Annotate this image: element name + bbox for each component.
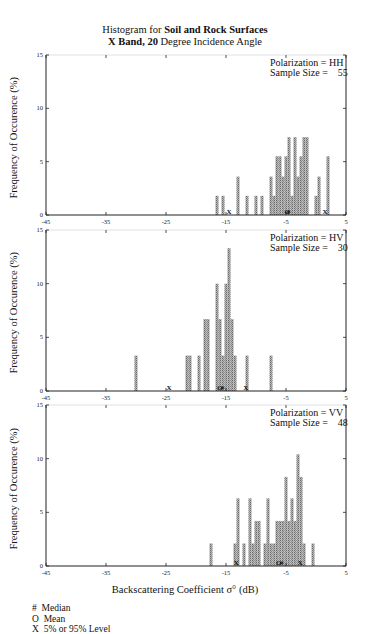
histogram-bar [135, 356, 138, 391]
histogram-bar [198, 356, 201, 391]
x-tick-label: -25 [162, 394, 171, 401]
panel-vv: -45-35-25-15-55051015XO#XPolarization = … [37, 401, 348, 576]
histogram-bar [219, 319, 222, 391]
x-tick-label: -15 [222, 394, 231, 401]
sample-size-label: Sample Size = 30 [270, 242, 348, 253]
histogram-bar [270, 177, 273, 215]
panel-hv: -45-35-25-15-55051015XO#XPolarization = … [37, 226, 348, 401]
histogram-bar [270, 543, 273, 566]
histogram-bar [318, 177, 321, 215]
histogram-bar [285, 477, 288, 566]
x-tick-label: -25 [162, 218, 171, 225]
y-tick-label: 15 [37, 226, 44, 233]
histogram-bar [261, 196, 264, 215]
y-axis-label-hh: Frequency of Occurence (%) [8, 69, 19, 199]
x-tick-label: -35 [102, 218, 111, 225]
histogram-bar [207, 319, 210, 391]
histogram-bar [264, 543, 267, 566]
histogram-bar [291, 498, 294, 566]
histogram-bar [255, 521, 258, 566]
histogram-bar [216, 284, 219, 391]
x-tick-label: 5 [344, 394, 347, 401]
histogram-bar [258, 521, 261, 566]
y-tick-label: 10 [37, 280, 44, 287]
histogram-bar [267, 498, 270, 566]
histogram-bar [252, 543, 255, 566]
histogram-bar [306, 137, 309, 215]
histogram-bar [288, 137, 291, 215]
x-tick-label: -45 [42, 394, 51, 401]
x-tick-label: -45 [42, 569, 51, 576]
histogram-bar [204, 319, 207, 391]
x-tick-label: 5 [344, 218, 347, 225]
histogram-bar [210, 543, 213, 566]
panel-hh: -45-35-25-15-55051015X#OXPolarization = … [37, 51, 348, 225]
sample-size-label: Sample Size = 48 [270, 417, 348, 428]
legend-item-median: # Median [32, 603, 110, 614]
x-tick-label: -5 [283, 218, 288, 225]
histogram-bar [297, 454, 300, 566]
histogram-bar [297, 177, 300, 215]
histogram-bar [303, 137, 306, 215]
y-tick-label: 5 [40, 333, 43, 340]
y-axis-label-vv: Frequency of Occurence (%) [8, 420, 19, 550]
marker-5-level: X [234, 559, 239, 567]
histogram-bar [285, 156, 288, 215]
x-tick-label: -5 [283, 569, 288, 576]
histogram-bar [312, 543, 315, 566]
histogram-bar [228, 248, 231, 391]
x-tick-label: -25 [162, 569, 171, 576]
y-tick-label: 0 [40, 211, 43, 218]
y-tick-label: 10 [37, 104, 44, 111]
histogram-bar [222, 196, 225, 215]
histogram-bar [234, 356, 237, 391]
marker-5-level: X [166, 384, 171, 392]
histogram-bar [237, 177, 240, 215]
sample-size-label: Sample Size = 55 [270, 67, 348, 78]
marker-median: # [280, 559, 284, 567]
legend: # Median O Mean X 5% or 95% Level [32, 603, 110, 634]
histogram-bar [216, 196, 219, 215]
x-tick-label: -35 [102, 394, 111, 401]
marker-95-level: X [298, 559, 303, 567]
y-tick-label: 0 [40, 387, 43, 394]
y-tick-label: 5 [40, 158, 43, 165]
histogram-bar [276, 156, 279, 215]
marker-95-level: X [322, 208, 327, 216]
legend-item-level: X 5% or 95% Level [32, 624, 110, 634]
histogram-bar [303, 543, 306, 566]
x-tick-label: -35 [102, 569, 111, 576]
histogram-bar [237, 498, 240, 566]
marker-95-level: X [243, 384, 248, 392]
legend-item-mean: O Mean [32, 614, 110, 625]
x-tick-label: -15 [222, 569, 231, 576]
histogram-bar [255, 196, 258, 215]
x-tick-label: -15 [222, 218, 231, 225]
histogram-bar [270, 356, 273, 391]
x-tick-label: -45 [42, 218, 51, 225]
y-tick-label: 15 [37, 401, 44, 408]
histogram-bar [291, 196, 294, 215]
histogram-bar [189, 356, 192, 391]
histogram-bar [186, 356, 189, 391]
histogram-bar [246, 196, 249, 215]
histogram-bar [243, 543, 246, 566]
histogram-bar [300, 156, 303, 215]
histogram-bar [225, 284, 228, 391]
y-tick-label: 5 [40, 508, 43, 515]
histogram-bar [288, 521, 291, 566]
x-axis-label: Backscattering Coefficient σ° (dB) [0, 584, 370, 595]
histogram-bar [300, 477, 303, 566]
x-tick-label: 5 [344, 569, 347, 576]
y-tick-label: 15 [37, 51, 44, 58]
histogram-bar [249, 498, 252, 566]
histogram-bar [315, 196, 318, 215]
histogram-bar [273, 543, 276, 566]
y-tick-label: 0 [40, 562, 43, 569]
histogram-bar [327, 156, 330, 215]
histogram-bar [279, 156, 282, 215]
y-tick-label: 10 [37, 455, 44, 462]
histogram-bar [294, 521, 297, 566]
marker-5-level: X [226, 208, 231, 216]
x-tick-label: -5 [283, 394, 288, 401]
